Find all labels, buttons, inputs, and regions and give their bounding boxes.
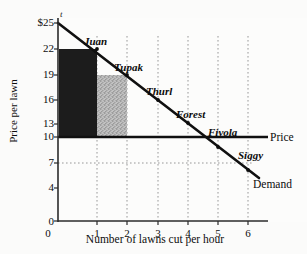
data-point-thurl — [156, 98, 160, 102]
y-tick-label-22: 22 — [6, 43, 54, 54]
point-label-forest: Forest — [176, 109, 205, 120]
demand-chart: $25 22 19 16 13 10 7 4 0 0 1 2 3 4 5 6 J… — [0, 0, 307, 254]
data-point-tupak — [125, 73, 129, 77]
x-axis-title: Number of lawns cut per hour — [40, 233, 270, 245]
point-label-thurl: Thurl — [146, 86, 172, 97]
point-label-fivola: Fivola — [208, 127, 237, 138]
data-point-siggy — [246, 168, 250, 172]
data-point-fivola — [216, 145, 220, 149]
y-tick-label-4: 4 — [6, 182, 54, 193]
point-label-juan: Juan — [84, 36, 107, 47]
y-axis-title: Price per lawn — [7, 71, 19, 151]
demand-line-label: Demand — [253, 178, 292, 190]
price-line-label: Price — [270, 131, 294, 143]
data-point-juan — [95, 47, 99, 51]
axis-top-mark: t — [60, 9, 63, 19]
consumer-surplus-bar-tupak — [97, 75, 127, 137]
consumer-surplus-bar-juan — [59, 49, 97, 137]
y-tick-label-7: 7 — [6, 157, 54, 168]
point-label-siggy: Siggy — [238, 150, 263, 161]
point-label-tupak: Tupak — [114, 62, 143, 73]
data-point-forest — [186, 121, 190, 125]
y-tick-label-25: $25 — [6, 17, 54, 28]
y-tick-label-0: 0 — [6, 216, 54, 227]
